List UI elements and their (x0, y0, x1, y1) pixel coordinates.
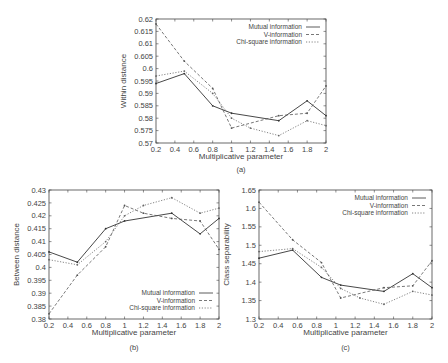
data-point (105, 246, 107, 248)
data-point (340, 297, 342, 299)
series-line-chi-square-information (49, 198, 219, 265)
x-axis-label: Multiplicative parameter (92, 328, 177, 337)
data-point (258, 257, 260, 259)
y-tick-label: 0.57 (138, 139, 153, 148)
x-axis-label: Multiplicative parameter (303, 328, 388, 337)
y-tick-label: 0.415 (27, 224, 46, 233)
data-point (321, 276, 323, 278)
legend: Mutual informationV-informationChi-squar… (236, 23, 320, 46)
data-point (250, 127, 252, 129)
data-point (306, 100, 308, 102)
y-tick-label: 0.39 (31, 289, 46, 298)
data-point (199, 233, 201, 235)
data-point (218, 207, 220, 209)
x-tick-label: 2 (324, 145, 328, 154)
data-point (218, 217, 220, 219)
data-point (306, 112, 308, 114)
y-axis-label: Within distance (119, 53, 128, 108)
data-point (218, 248, 220, 250)
y-tick-label: 0.59 (138, 89, 153, 98)
data-point (105, 228, 107, 230)
y-tick-label: 0.595 (134, 77, 153, 86)
y-tick-label: 1.65 (241, 186, 256, 195)
panel-caption: (a) (236, 165, 246, 174)
data-point (183, 73, 185, 75)
x-axis-label: Multiplicative parameter (199, 152, 284, 161)
y-tick-label: 1.45 (241, 259, 256, 268)
data-point (143, 205, 145, 207)
data-point (292, 239, 294, 241)
y-tick-label: 0.62 (138, 15, 153, 24)
data-point (321, 262, 323, 264)
panel-caption: (b) (129, 343, 139, 352)
series-line-chi-square-information (259, 249, 432, 305)
x-tick-label: 1.8 (302, 145, 312, 154)
data-point (212, 88, 214, 90)
data-point (325, 115, 327, 117)
y-tick-label: 0.61 (138, 39, 153, 48)
y-tick-label: 0.58 (138, 114, 153, 123)
data-point (124, 205, 126, 207)
y-tick-label: 0.585 (134, 101, 153, 110)
y-tick-label: 0.385 (27, 302, 46, 311)
data-point (231, 127, 233, 129)
chart-panel-a: 0.20.40.60.811.21.41.61.820.570.5750.580… (119, 15, 328, 174)
data-point (183, 60, 185, 62)
data-point (171, 217, 173, 219)
data-point (321, 267, 323, 269)
y-tick-label: 1.5 (246, 241, 256, 250)
data-point (124, 215, 126, 217)
data-point (292, 248, 294, 250)
legend-label: Mutual information (355, 194, 409, 201)
x-tick-label: 0.4 (63, 321, 73, 330)
x-tick-label: 2 (217, 321, 221, 330)
data-point (383, 290, 385, 292)
legend-label: Mutual information (142, 289, 196, 296)
data-point (431, 294, 433, 296)
data-point (48, 313, 50, 315)
y-tick-label: 0.43 (31, 186, 46, 195)
data-point (325, 125, 327, 127)
data-point (278, 115, 280, 117)
x-tick-label: 1.6 (388, 321, 398, 330)
series-line-mutual-information (259, 250, 432, 291)
data-point (325, 85, 327, 87)
y-tick-label: 0.395 (27, 276, 46, 285)
data-point (340, 284, 342, 286)
x-tick-label: 0.6 (82, 321, 92, 330)
legend-label: V-information (157, 297, 196, 304)
figure-canvas: 0.20.40.60.811.21.41.61.820.570.5750.580… (0, 0, 448, 363)
y-tick-label: 0.38 (31, 315, 46, 324)
y-tick-label: 1.35 (241, 296, 256, 305)
data-point (155, 83, 157, 85)
y-tick-label: 1.55 (241, 222, 256, 231)
data-point (48, 251, 50, 253)
data-point (231, 117, 233, 119)
data-point (258, 201, 260, 203)
series-line-v-information (259, 202, 432, 298)
data-point (155, 75, 157, 77)
legend-label: Mutual information (249, 23, 303, 30)
data-point (412, 285, 414, 287)
data-point (124, 220, 126, 222)
y-tick-label: 0.4 (36, 263, 46, 272)
data-point (306, 120, 308, 122)
data-point (183, 70, 185, 72)
data-point (231, 112, 233, 114)
data-point (431, 287, 433, 289)
x-tick-label: 0.4 (273, 321, 283, 330)
data-point (76, 264, 78, 266)
y-tick-label: 0.405 (27, 250, 46, 259)
x-tick-label: 1.8 (195, 321, 205, 330)
series-line-chi-square-information (156, 71, 326, 136)
data-point (278, 135, 280, 137)
data-point (383, 303, 385, 305)
y-tick-label: 0.425 (27, 199, 46, 208)
data-point (212, 105, 214, 107)
legend: Mutual informationV-informationChi-squar… (129, 289, 213, 312)
legend-label: Chi-square information (342, 209, 408, 217)
data-point (431, 260, 433, 262)
y-tick-label: 1.6 (246, 204, 256, 213)
data-point (76, 274, 78, 276)
data-point (412, 273, 414, 275)
